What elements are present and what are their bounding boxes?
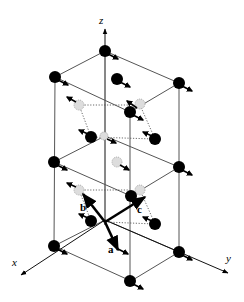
vector-a-label: a [108, 243, 114, 255]
cell-vertical-edges [54, 77, 179, 281]
z-axis-label: z [98, 14, 104, 26]
crystal-structure-diagram: z x y [0, 0, 244, 302]
vector-b-label: b [80, 201, 86, 213]
vector-c-label: c [137, 203, 142, 215]
x-axis-label: x [11, 256, 17, 268]
y-axis-label: y [225, 252, 231, 264]
y-axis: y [105, 220, 231, 273]
bottom-plane [54, 220, 179, 281]
